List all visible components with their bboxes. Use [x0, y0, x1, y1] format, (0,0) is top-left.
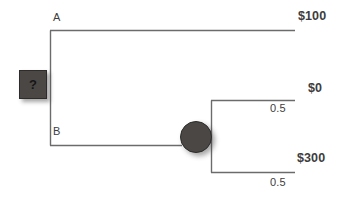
decision-tree-diagram: ? A B $100 $0 $300 0.5 0.5	[0, 0, 345, 211]
probability-label-lower: 0.5	[270, 177, 286, 188]
branch-label-b: B	[53, 126, 61, 137]
payoff-label-300: $300	[297, 152, 325, 165]
decision-node-label: ?	[29, 77, 37, 92]
branch-label-a: A	[53, 12, 61, 23]
chance-node[interactable]	[180, 121, 212, 153]
payoff-label-100: $100	[298, 10, 326, 23]
tree-edges	[0, 0, 345, 211]
probability-label-upper: 0.5	[270, 103, 286, 114]
payoff-label-0: $0	[308, 82, 322, 95]
decision-node[interactable]: ?	[19, 70, 47, 99]
